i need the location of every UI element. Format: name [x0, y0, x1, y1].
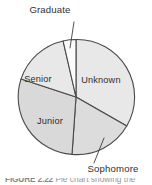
- pie-label-junior: Junior: [37, 116, 63, 126]
- pie-chart: Graduate Unknown Senior Junior Sophomore: [0, 0, 152, 185]
- figure-caption-label: FIGURE 2.22: [5, 178, 53, 184]
- figure-container: Graduate Unknown Senior Junior Sophomore…: [0, 0, 152, 185]
- pie-label-sophomore: Sophomore: [88, 163, 139, 174]
- pie-label-senior: Senior: [24, 74, 51, 84]
- figure-caption: FIGURE 2.22 Pie chart showing the: [5, 178, 135, 184]
- pie-label-unknown: Unknown: [81, 75, 120, 85]
- pie-label-graduate: Graduate: [29, 4, 70, 15]
- figure-caption-text: Pie chart showing the: [55, 178, 135, 184]
- figure-caption-strip: FIGURE 2.22 Pie chart showing the: [0, 178, 152, 185]
